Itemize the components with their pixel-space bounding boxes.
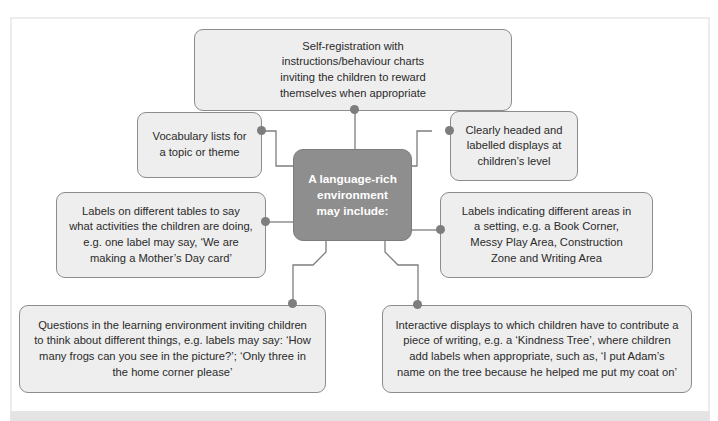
node-area-labels: Labels indicating different areas in a s… (440, 192, 653, 278)
node-table-labels: Labels on different tables to say what a… (56, 192, 266, 278)
connector-dot (350, 105, 359, 114)
node-questions: Questions in the learning environment in… (19, 305, 326, 393)
node-text: Clearly headed and labelled displays at … (465, 123, 563, 170)
center-text: A language-rich environment may include: (308, 171, 397, 219)
node-interactive-displays: Interactive displays to which children h… (382, 305, 692, 393)
node-text: Self-registration with instructions/beha… (265, 39, 441, 101)
connector-dot (288, 299, 297, 308)
node-text: Interactive displays to which children h… (395, 318, 679, 380)
node-text: Labels on different tables to say what a… (69, 204, 253, 266)
node-self-registration: Self-registration with instructions/beha… (194, 29, 512, 111)
frame-bottom-edge (10, 411, 710, 421)
node-vocabulary-lists: Vocabulary lists for a topic or theme (137, 112, 262, 178)
connector-dot (445, 126, 454, 135)
node-clearly-headed-displays: Clearly headed and labelled displays at … (450, 111, 578, 181)
connector-dot (261, 217, 270, 226)
connector-dot (257, 126, 266, 135)
node-text: Labels indicating different areas in a s… (459, 204, 634, 266)
center-node: A language-rich environment may include: (293, 149, 412, 241)
node-text: Questions in the learning environment in… (34, 318, 311, 380)
connector-dot (436, 225, 445, 234)
node-text: Vocabulary lists for a topic or theme (148, 129, 251, 160)
connector-dot (413, 300, 422, 309)
